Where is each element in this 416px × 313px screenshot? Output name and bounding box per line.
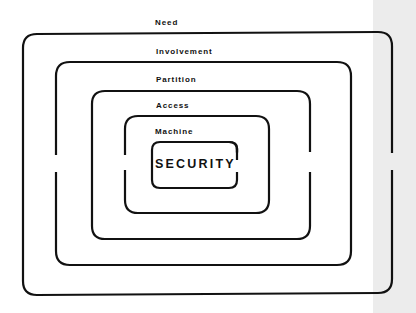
label-partition: Partition xyxy=(156,75,197,84)
label-involvement: Involvement xyxy=(156,47,213,56)
label-need: Need xyxy=(155,18,178,27)
label-machine: Machine xyxy=(155,127,193,136)
core-label-security: SECURITY xyxy=(155,157,236,171)
label-access: Access xyxy=(156,101,189,110)
